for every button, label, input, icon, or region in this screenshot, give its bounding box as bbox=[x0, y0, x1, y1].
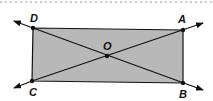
label-D: D bbox=[30, 12, 38, 24]
label-O: O bbox=[103, 40, 112, 52]
point-O bbox=[105, 54, 109, 58]
point-B bbox=[181, 81, 185, 85]
point-D bbox=[31, 26, 35, 30]
label-B: B bbox=[179, 88, 187, 100]
rectangle-diagram: D A O C B bbox=[0, 0, 213, 101]
label-A: A bbox=[177, 13, 186, 25]
point-A bbox=[181, 28, 185, 32]
point-C bbox=[30, 79, 34, 83]
label-C: C bbox=[29, 86, 38, 98]
